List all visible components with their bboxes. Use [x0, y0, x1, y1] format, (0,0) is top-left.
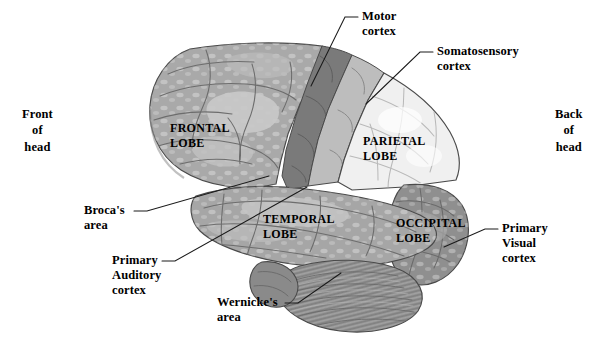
- lobe-label-frontal: FRONTAL LOBE: [170, 121, 230, 151]
- orientation-label-front: Front of head: [22, 106, 53, 155]
- lobe-label-occipital: OCCIPITAL LOBE: [396, 216, 466, 246]
- callout-label-wernickes-area: Wernicke's area: [217, 295, 278, 325]
- brain-body: [140, 35, 480, 332]
- region-cerebellum: [278, 260, 423, 332]
- callout-label-motor-cortex: Motor cortex: [362, 9, 397, 39]
- lobe-label-parietal: PARIETAL LOBE: [363, 134, 426, 164]
- orientation-label-back: Back of head: [555, 106, 583, 155]
- brain-diagram-figure: Front of headBack of head FRONTAL LOBEPA…: [0, 0, 602, 345]
- callout-label-primary-visual-cortex: Primary Visual cortex: [502, 221, 548, 265]
- lobe-label-temporal: TEMPORAL LOBE: [263, 212, 335, 242]
- callout-label-somatosensory-cortex: Somatosensory cortex: [437, 44, 519, 74]
- callout-label-primary-auditory-cortex: Primary Auditory cortex: [112, 253, 161, 297]
- callout-label-brocas-area: Broca's area: [84, 203, 125, 233]
